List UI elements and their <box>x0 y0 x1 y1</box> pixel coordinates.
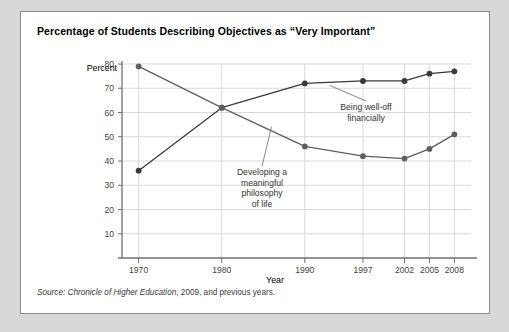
annotation-label: of life <box>252 199 273 209</box>
x-tick-label: 1990 <box>295 265 314 275</box>
annotation-label: financially <box>347 113 385 123</box>
y-tick-label: 60 <box>104 108 114 118</box>
data-point-marker <box>402 78 408 84</box>
y-tick-label: 70 <box>104 83 114 93</box>
chart-plot-area: 1020304050607080 19701980199019972002200… <box>21 12 491 315</box>
data-point-marker <box>302 144 308 150</box>
x-axis-tick-labels: 1970198019901997200220052008 <box>129 265 464 275</box>
y-tick-label: 20 <box>104 205 114 215</box>
annotation-leader-line <box>262 127 272 166</box>
y-tick-label: 10 <box>104 229 114 239</box>
data-point-marker <box>219 105 225 111</box>
y-tick-label: 50 <box>104 132 114 142</box>
data-point-marker <box>451 68 457 74</box>
data-point-marker <box>427 71 433 77</box>
source-lead: Source: <box>37 288 65 297</box>
series-line <box>139 71 455 170</box>
data-point-marker <box>136 168 142 174</box>
data-point-marker <box>360 153 366 159</box>
y-tick-label: 40 <box>104 156 114 166</box>
source-rest: , 2009, and previous years. <box>176 288 275 297</box>
annotation-label: Being well-off <box>340 102 392 112</box>
horizontal-gridlines <box>122 64 471 234</box>
data-point-marker <box>360 78 366 84</box>
x-tick-label: 2005 <box>420 265 439 275</box>
figure-panel: Percentage of Students Describing Object… <box>20 11 490 314</box>
data-point-marker <box>136 64 142 70</box>
series-annotations: Being well-offfinanciallyDeveloping amea… <box>237 85 392 208</box>
x-tick-label: 1997 <box>353 265 372 275</box>
data-point-marker <box>451 131 457 137</box>
y-tick-label: 30 <box>104 180 114 190</box>
x-tick-label: 2008 <box>445 265 464 275</box>
source-note: Source: Chronicle of Higher Education, 2… <box>37 288 275 297</box>
y-axis-tick-labels: 1020304050607080 <box>104 59 114 239</box>
source-publication: Chronicle of Higher Education <box>65 288 176 297</box>
data-point-marker <box>302 81 308 87</box>
annotation-label: meaningful <box>241 178 283 188</box>
axis-lines <box>118 61 477 258</box>
x-tick-label: 1970 <box>129 265 148 275</box>
x-tick-label: 2002 <box>395 265 414 275</box>
annotation-label: Developing a <box>237 167 287 177</box>
annotation-leader-line <box>330 85 366 101</box>
x-tick-label: 1980 <box>212 265 231 275</box>
data-point-marker <box>402 156 408 162</box>
data-point-marker <box>427 146 433 152</box>
x-axis-label: Year <box>266 275 284 285</box>
y-axis-label: Percent <box>87 63 118 73</box>
line-chart-svg: 1020304050607080 19701980199019972002200… <box>21 12 491 315</box>
x-axis-tick-marks <box>139 258 455 263</box>
annotation-label: philosophy <box>241 188 283 198</box>
